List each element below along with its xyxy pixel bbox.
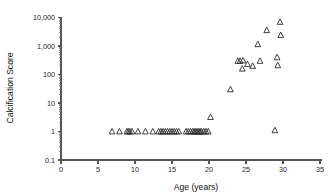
y-axis-title: Calcification Score (5, 52, 15, 123)
x-axis-title: Age (years) (174, 182, 219, 192)
x-tick-label: 35 (316, 165, 324, 174)
data-point-marker (208, 114, 214, 120)
data-point-marker (274, 54, 280, 60)
axes-group (61, 17, 322, 161)
x-tick-label: 5 (96, 165, 100, 174)
y-tick-label: 100 (43, 70, 55, 79)
data-point-marker (255, 41, 261, 47)
y-tick-labels: 0.11101001,00010,000 (33, 13, 55, 165)
data-point-marker (250, 63, 256, 69)
plot-canvas: 0.11101001,00010,000 05101520253035 Calc… (0, 0, 330, 196)
data-point-marker (277, 19, 283, 25)
y-tick-label: 10 (47, 99, 55, 108)
data-point-marker (135, 128, 141, 134)
y-tick-label: 0.1 (45, 156, 55, 165)
data-point-marker (278, 32, 284, 38)
x-tick-label: 15 (168, 165, 176, 174)
data-point-marker (264, 27, 270, 33)
data-point-marker (143, 128, 149, 134)
x-tick-label: 20 (205, 165, 213, 174)
data-markers-group (109, 19, 283, 134)
scatter-plot-figure: 0.11101001,00010,000 05101520253035 Calc… (0, 0, 330, 196)
data-point-marker (150, 128, 156, 134)
x-tick-label: 0 (59, 165, 63, 174)
y-tick-label: 1 (51, 127, 55, 136)
y-tick-label: 1,000 (37, 42, 55, 51)
x-tick-labels: 05101520253035 (59, 165, 324, 174)
x-tick-label: 10 (131, 165, 139, 174)
data-point-marker (275, 62, 281, 68)
data-point-marker (257, 58, 263, 64)
x-tick-label: 30 (279, 165, 287, 174)
tick-marks-group (58, 18, 321, 165)
data-point-marker (117, 128, 123, 134)
data-point-marker (109, 128, 115, 134)
data-point-marker (272, 127, 278, 133)
x-tick-label: 25 (242, 165, 250, 174)
y-tick-label: 10,000 (33, 13, 55, 22)
data-point-marker (228, 86, 234, 92)
